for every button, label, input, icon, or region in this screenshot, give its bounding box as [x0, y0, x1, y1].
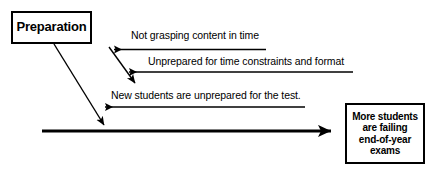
cause-connector-arrow [54, 44, 104, 125]
cause-box-label: Preparation [16, 20, 86, 35]
effect-box-label: More students are failing end-of-year ex… [352, 111, 418, 157]
effect-box-line-3: end-of-year [352, 134, 418, 146]
effect-box-line-2: are failing [352, 122, 418, 134]
sub-cause-connector-arrow [109, 47, 135, 83]
cause-box: Preparation [11, 11, 92, 44]
cause-and-effect-diagram: Preparation Not grasping content in time… [0, 0, 431, 171]
effect-box-line-1: More students [352, 111, 418, 123]
rib-label-unprepared-time-constraints: Unprepared for time constraints and form… [148, 56, 344, 67]
rib-label-not-grasping-content: Not grasping content in time [131, 30, 259, 41]
rib-label-new-students-unprepared: New students are unprepared for the test… [111, 90, 301, 101]
effect-box-line-4: exams [352, 145, 418, 157]
effect-box: More students are failing end-of-year ex… [345, 103, 425, 164]
